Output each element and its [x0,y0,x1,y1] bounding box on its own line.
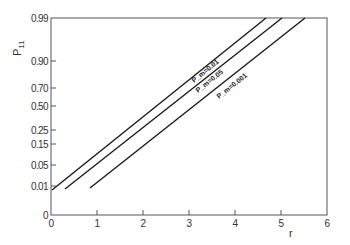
series-labels: P_m=0.01P_m=0.05P_m=0.001 [190,58,248,100]
series-lines [52,18,305,190]
y-tick-label: 0.90 [31,56,49,67]
y-tick-label: 0.15 [31,139,49,150]
y-tick-label: 0.99 [31,13,49,24]
x-tick-label: 1 [95,218,101,229]
y-axis-title-main: P [11,49,23,56]
y-tick-label: 0.05 [31,160,49,171]
y-tick-label: 0.25 [31,125,49,136]
x-tick-label: 0 [49,218,55,229]
x-tick-label: 3 [187,218,193,229]
series-line-2 [90,18,305,188]
x-axis-title: r [289,227,293,239]
x-tick-label: 2 [141,218,147,229]
y-tick-label: 0.01 [31,181,49,192]
y-axis-title: P11 [11,40,26,56]
chart: 0123456 00.010.050.150.250.500.700.900.9… [0,0,350,245]
series-line-0 [52,18,266,190]
x-tick-label: 5 [279,218,285,229]
x-tick-label: 4 [233,218,239,229]
x-tick-label: 6 [325,218,331,229]
y-tick-label: 0.70 [31,83,49,94]
y-axis-title-sub: 11 [17,40,26,49]
y-tick-label: 0.50 [31,101,49,112]
series-line-1 [65,18,282,189]
